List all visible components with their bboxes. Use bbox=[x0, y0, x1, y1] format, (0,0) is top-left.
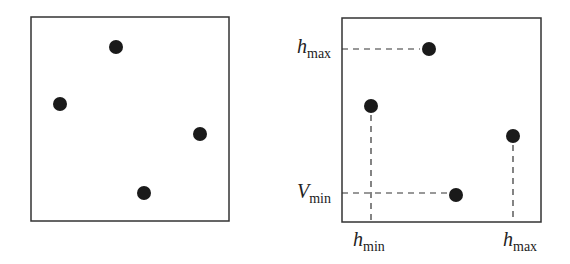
right-panel-frame bbox=[342, 18, 541, 222]
left-panel-frame bbox=[31, 17, 229, 221]
left-point-1 bbox=[109, 40, 123, 54]
right-point-2 bbox=[364, 99, 378, 113]
label-vmin-left: Vmin bbox=[297, 180, 331, 207]
label-hmin-bottom: hmin bbox=[353, 228, 385, 255]
label-hmax-bottom: hmax bbox=[503, 228, 537, 255]
label-hmax-left: hmax bbox=[297, 35, 331, 62]
right-point-3 bbox=[506, 129, 520, 143]
right-point-4 bbox=[449, 188, 463, 202]
left-point-4 bbox=[137, 186, 151, 200]
right-point-1 bbox=[422, 42, 436, 56]
figure-canvas bbox=[0, 0, 570, 264]
left-point-2 bbox=[53, 97, 67, 111]
left-point-3 bbox=[193, 127, 207, 141]
